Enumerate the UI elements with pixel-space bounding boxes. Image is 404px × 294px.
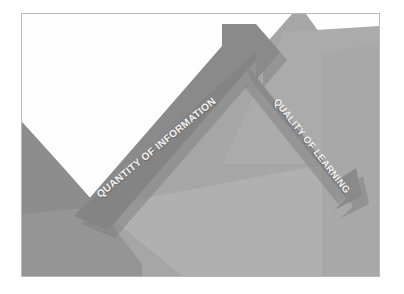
background-facets (22, 14, 379, 276)
figure-frame: QUANTITY OF INFORMATION QUALITY OF LEARN… (21, 13, 380, 277)
diagram-canvas (22, 14, 379, 276)
tone-facet-far-right (322, 42, 379, 276)
page-root: QUANTITY OF INFORMATION QUALITY OF LEARN… (0, 0, 404, 294)
